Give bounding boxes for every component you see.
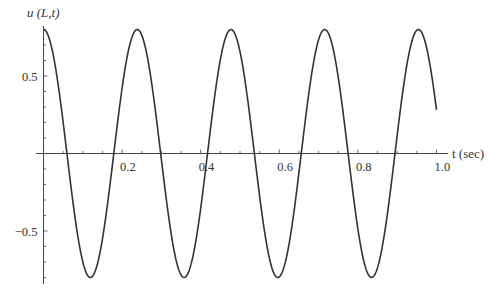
y-tick-label: 0.5 — [22, 70, 38, 84]
x-tick-label: 1.0 — [435, 160, 451, 174]
y-tick-label: −0.5 — [15, 225, 38, 239]
x-tick-label: 0.6 — [277, 160, 293, 174]
x-axis-label: t (sec) — [452, 146, 484, 161]
x-tick-label: 0.2 — [120, 160, 136, 174]
chart: 0.20.40.60.81.0 0.5−0.5 u (L,t) t (sec) — [0, 0, 497, 298]
plot-area: 0.20.40.60.81.0 0.5−0.5 u (L,t) t (sec) — [0, 0, 497, 298]
x-tick-label: 0.8 — [356, 160, 372, 174]
x-tick-labels: 0.20.40.60.81.0 — [120, 160, 450, 174]
y-tick-labels: 0.5−0.5 — [15, 70, 38, 239]
y-axis-label: u (L,t) — [27, 5, 60, 20]
